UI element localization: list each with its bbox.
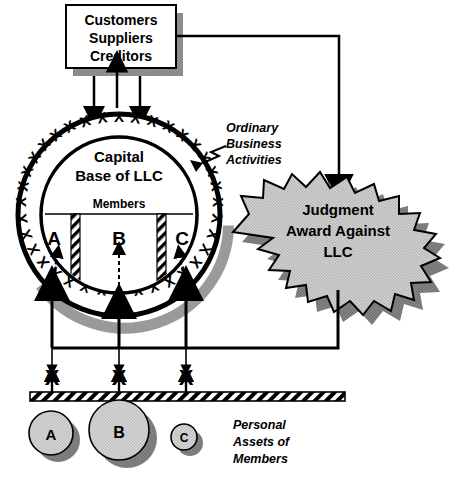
liability-barrier: X X X [30, 365, 345, 401]
judgment-line-3: LLC [323, 243, 352, 260]
personal-assets-caption-3: Members [233, 452, 288, 466]
capital-base-line-2: Base of LLC [75, 167, 163, 184]
ring-x-8: X [207, 180, 225, 193]
asset-label-b: B [113, 424, 125, 441]
ring-x-27: X [12, 197, 29, 207]
diagram-canvas: Customers Suppliers Creditors X X X [0, 0, 457, 485]
llc-circle: X X X X X X X X X X X X X X X X X X X X [12, 108, 229, 328]
personal-assets-caption-1: Personal [233, 418, 286, 432]
personal-assets: A B C Personal Assets of Members [29, 400, 291, 468]
llc-liability-diagram: Customers Suppliers Creditors X X X [0, 0, 457, 485]
member-label-a: A [47, 228, 61, 249]
stakeholder-line-2: Suppliers [89, 30, 153, 46]
ordinary-line-3: Activities [225, 153, 282, 167]
ordinary-line-2: Business [226, 137, 282, 151]
member-label-b: B [112, 228, 126, 249]
ring-x-0: X [114, 108, 124, 125]
ring-x-35: X [96, 108, 109, 126]
ordinary-line-1: Ordinary [226, 121, 279, 135]
ring-x-26: X [12, 213, 30, 226]
members-label: Members [93, 197, 146, 211]
stakeholder-line-3: Creditors [90, 48, 152, 64]
asset-label-c: C [180, 431, 189, 445]
barrier-bar [30, 392, 345, 401]
asset-label-a: A [46, 426, 57, 443]
personal-assets-caption-2: Assets of [232, 435, 291, 449]
capital-base-line-1: Capital [94, 148, 144, 165]
member-label-c: C [175, 228, 189, 249]
judgment-line-2: Award Against [286, 222, 390, 239]
stakeholder-box: Customers Suppliers Creditors [66, 5, 183, 76]
stakeholder-line-1: Customers [84, 12, 157, 28]
judgment-burst: Judgment Award Against LLC [233, 172, 449, 325]
ring-x-9: X [210, 197, 227, 207]
judgment-line-1: Judgment [302, 201, 374, 218]
